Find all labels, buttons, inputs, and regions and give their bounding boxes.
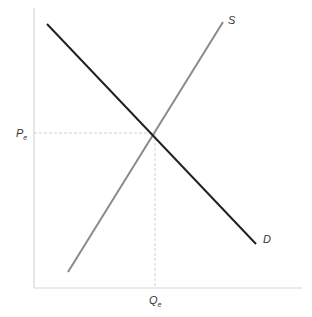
quantity-equilibrium-label: Qe	[149, 294, 162, 308]
supply-label: S	[228, 14, 236, 26]
demand-label: D	[263, 233, 271, 245]
supply-demand-diagram: S D Pe Qe	[0, 0, 312, 317]
demand-curve	[47, 24, 256, 244]
supply-curve	[68, 22, 223, 272]
quantity-label-sub: e	[158, 301, 162, 308]
price-equilibrium-label: Pe	[16, 127, 27, 141]
price-label-sub: e	[23, 134, 27, 141]
